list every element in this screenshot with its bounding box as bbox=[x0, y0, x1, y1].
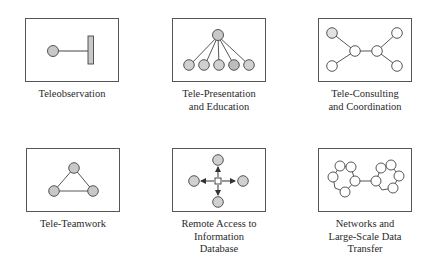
audience-node-icon bbox=[244, 60, 255, 71]
client-node-icon bbox=[238, 176, 249, 187]
frame-border bbox=[173, 19, 266, 82]
frame-border bbox=[27, 149, 120, 212]
label-line: Tele-Consulting bbox=[293, 88, 433, 101]
audience-node-icon bbox=[199, 60, 210, 71]
remote-access-diagram bbox=[172, 148, 266, 212]
coordinator-node-icon bbox=[350, 46, 361, 57]
frame-border bbox=[26, 19, 119, 82]
panel-label: Tele-Presentation and Education bbox=[147, 88, 291, 113]
gateway-node-icon bbox=[371, 176, 381, 186]
label-line: and Coordination bbox=[293, 101, 433, 114]
team-member-node-icon bbox=[49, 186, 60, 197]
audience-node-icon bbox=[184, 60, 195, 71]
label-line: Transfer bbox=[293, 243, 433, 256]
network-node-icon bbox=[386, 160, 396, 170]
panel-label: Tele-Consulting and Coordination bbox=[293, 88, 433, 113]
client-node-icon bbox=[189, 176, 200, 187]
network-node-icon bbox=[335, 161, 345, 171]
coordinator-node-icon bbox=[372, 46, 383, 57]
tele-consulting-diagram bbox=[318, 18, 412, 82]
label-line: Networks and bbox=[293, 218, 433, 231]
consultant-node-icon bbox=[392, 61, 403, 72]
client-node-icon bbox=[213, 197, 224, 208]
consultant-node-icon bbox=[327, 28, 338, 39]
team-member-node-icon bbox=[88, 186, 99, 197]
label-line: Remote Access to bbox=[147, 218, 291, 231]
label-line: Information bbox=[147, 231, 291, 244]
panel-label: Tele-Teamwork bbox=[1, 218, 145, 231]
audience-node-icon bbox=[229, 60, 240, 71]
panel-label: Networks and Large-Scale Data Transfer bbox=[293, 218, 433, 256]
network-node-icon bbox=[346, 162, 356, 172]
client-node-icon bbox=[213, 155, 224, 166]
observed-target-bar-icon bbox=[88, 36, 94, 64]
teleobservation-diagram bbox=[25, 18, 119, 82]
consultant-node-icon bbox=[327, 61, 338, 72]
label-line: Database bbox=[147, 243, 291, 256]
label-line: Teleobservation bbox=[0, 88, 144, 101]
network-node-icon bbox=[376, 163, 386, 173]
tele-presentation-diagram bbox=[172, 18, 266, 82]
panel-label: Teleobservation bbox=[0, 88, 144, 101]
label-line: Tele-Teamwork bbox=[1, 218, 145, 231]
panel-label: Remote Access to Information Database bbox=[147, 218, 291, 256]
team-member-node-icon bbox=[69, 163, 80, 174]
tele-teamwork-diagram bbox=[26, 148, 120, 212]
label-line: Tele-Presentation bbox=[147, 88, 291, 101]
network-node-icon bbox=[340, 187, 350, 197]
database-hub-icon bbox=[215, 178, 221, 184]
label-line: Large-Scale Data bbox=[293, 231, 433, 244]
network-node-icon bbox=[388, 183, 398, 193]
presenter-node-icon bbox=[213, 30, 224, 41]
observer-node-icon bbox=[48, 46, 59, 57]
audience-node-icon bbox=[214, 60, 225, 71]
network-node-icon bbox=[328, 172, 338, 182]
label-line: and Education bbox=[147, 101, 291, 114]
gateway-node-icon bbox=[350, 176, 360, 186]
networks-diagram bbox=[318, 148, 412, 212]
network-node-icon bbox=[394, 171, 404, 181]
consultant-node-icon bbox=[392, 28, 403, 39]
